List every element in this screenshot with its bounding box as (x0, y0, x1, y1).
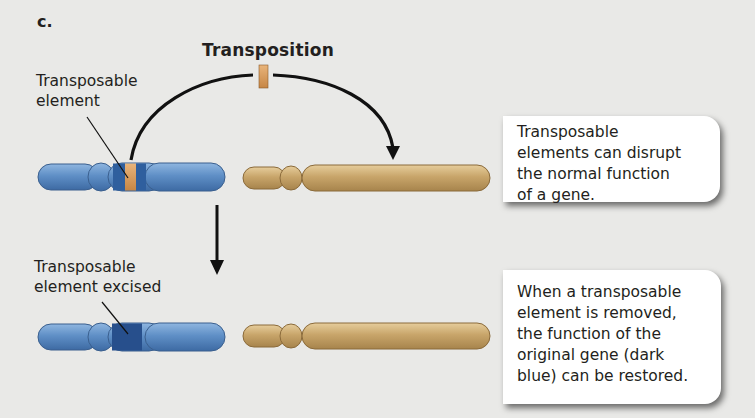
callout-line: of a gene. (517, 185, 708, 206)
recipient-chromosome (243, 165, 490, 191)
transposition-arc (131, 75, 253, 160)
down-arrowhead-icon (210, 260, 224, 275)
callout-line: Transposable (517, 122, 708, 143)
callout-line: original gene (dark (517, 345, 709, 366)
callout-line: When a transposable (517, 282, 709, 303)
callout-line: elements can disrupt (517, 143, 708, 164)
callout-line: element is removed, (517, 303, 709, 324)
chromosome-excised (38, 323, 225, 351)
callout-restored: When a transposable element is removed, … (503, 270, 721, 404)
callout-line: the function of the (517, 324, 709, 345)
arrowhead-icon (386, 146, 400, 160)
callout-line: the normal function (517, 164, 708, 185)
recipient-chromosome-bottom (243, 323, 490, 349)
callout-disrupt: Transposable elements can disrupt the no… (503, 116, 720, 202)
callout-line: blue) can be restored. (517, 366, 709, 387)
transposon-block (259, 65, 268, 88)
chromosome-with-transposon (38, 163, 225, 191)
